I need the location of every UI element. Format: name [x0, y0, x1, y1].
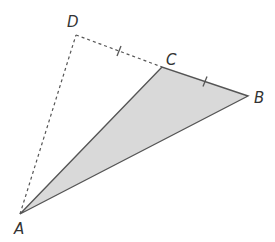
label-a: A	[13, 220, 24, 238]
label-c: C	[166, 51, 177, 69]
geometry-diagram: D C B A	[0, 0, 275, 242]
label-d: D	[67, 13, 79, 31]
label-b: B	[254, 89, 264, 107]
triangle-acb	[20, 67, 248, 214]
